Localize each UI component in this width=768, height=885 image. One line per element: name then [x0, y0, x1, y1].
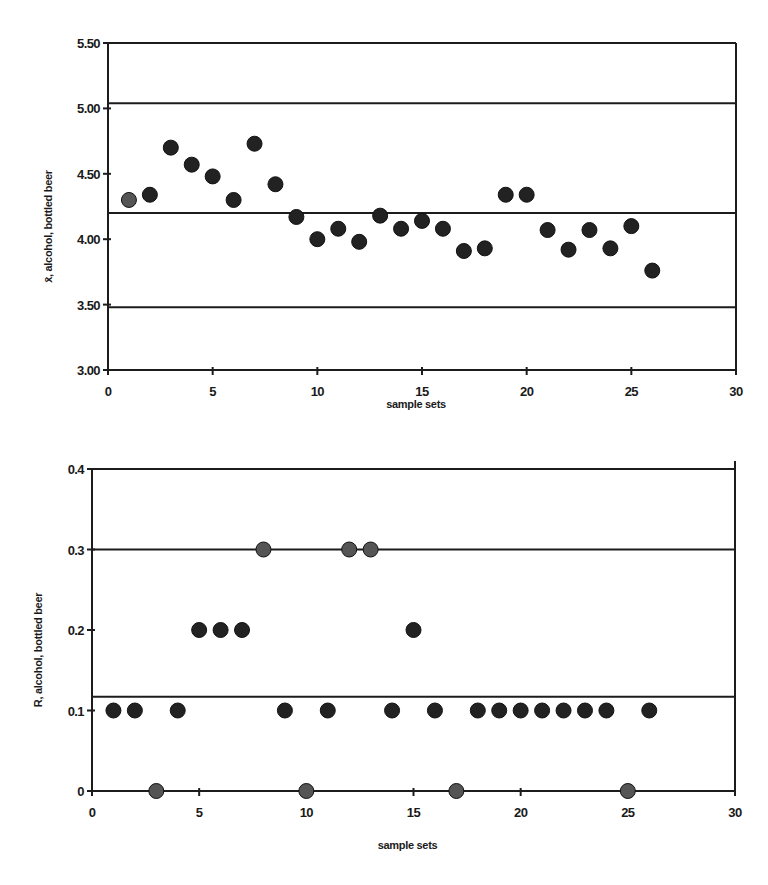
data-point	[415, 213, 430, 228]
data-point	[470, 703, 485, 718]
data-point	[352, 234, 367, 249]
data-point	[342, 542, 357, 557]
y-tick-label: 0.2	[68, 623, 85, 638]
data-point	[427, 703, 442, 718]
data-point	[498, 187, 513, 202]
data-point	[256, 542, 271, 557]
x-tick-label: 10	[311, 384, 325, 399]
data-point	[582, 223, 597, 238]
y-axis-title: R, alcohol, bottled beer	[32, 592, 44, 707]
data-point	[645, 263, 660, 278]
data-point	[620, 784, 635, 799]
x-tick-label: 30	[729, 384, 743, 399]
data-point	[184, 157, 199, 172]
y-tick-label: 4.50	[77, 167, 100, 182]
y-tick-label: 0.1	[68, 704, 85, 719]
x-tick-label: 15	[415, 384, 429, 399]
y-tick-label: 5.00	[77, 101, 100, 116]
data-point	[577, 703, 592, 718]
y-tick-label: 5.50	[77, 36, 100, 51]
data-point	[513, 703, 528, 718]
data-point	[127, 703, 142, 718]
x-axis-title: sample sets	[378, 839, 438, 851]
data-point	[320, 703, 335, 718]
data-point	[642, 703, 657, 718]
range-chart-svg: 00.10.20.30.4051015202530sample setsR, a…	[0, 425, 768, 885]
data-point	[142, 187, 157, 202]
y-tick-label: 0.3	[68, 543, 85, 558]
data-point	[289, 209, 304, 224]
data-point	[492, 703, 507, 718]
data-point	[535, 703, 550, 718]
data-point	[277, 703, 292, 718]
data-point	[373, 208, 388, 223]
data-point	[205, 169, 220, 184]
data-point	[449, 784, 464, 799]
x-tick-label: 30	[728, 805, 742, 820]
y-tick-label: 0	[77, 784, 84, 799]
x-tick-label: 25	[625, 384, 639, 399]
x-tick-label: 20	[520, 384, 534, 399]
data-point	[299, 784, 314, 799]
data-point	[106, 703, 121, 718]
x-tick-label: 0	[89, 805, 96, 820]
y-axis-title: x̄, alcohol, bottled beer	[42, 169, 54, 283]
range-chart: 00.10.20.30.4051015202530sample setsR, a…	[0, 425, 768, 885]
data-point	[599, 703, 614, 718]
xbar-chart-svg: 3.003.504.004.505.005.50051015202530samp…	[0, 0, 768, 425]
xbar-chart: 3.003.504.004.505.005.50051015202530samp…	[0, 0, 768, 425]
data-point	[363, 542, 378, 557]
data-point	[435, 221, 450, 236]
data-point	[540, 223, 555, 238]
data-point	[519, 187, 534, 202]
x-tick-label: 10	[300, 805, 314, 820]
data-point	[456, 243, 471, 258]
y-tick-label: 3.00	[77, 363, 100, 378]
y-tick-label: 0.4	[68, 462, 86, 477]
data-point	[226, 192, 241, 207]
x-tick-label: 0	[105, 384, 112, 399]
data-point	[331, 221, 346, 236]
data-point	[406, 623, 421, 638]
data-point	[477, 241, 492, 256]
data-point	[385, 703, 400, 718]
data-point	[268, 177, 283, 192]
x-tick-label: 5	[196, 805, 203, 820]
data-point	[213, 623, 228, 638]
data-point	[149, 784, 164, 799]
x-tick-label: 20	[514, 805, 528, 820]
x-tick-label: 5	[209, 384, 216, 399]
data-point	[310, 232, 325, 247]
data-point	[170, 703, 185, 718]
y-tick-label: 4.00	[77, 232, 100, 247]
y-tick-label: 3.50	[77, 298, 100, 313]
data-point	[192, 623, 207, 638]
data-point	[121, 192, 136, 207]
data-point	[394, 221, 409, 236]
data-point	[624, 219, 639, 234]
data-point	[247, 136, 262, 151]
data-point	[603, 241, 618, 256]
data-point	[235, 623, 250, 638]
data-point	[561, 242, 576, 257]
x-tick-label: 15	[407, 805, 421, 820]
data-point	[163, 140, 178, 155]
x-axis-title: sample sets	[386, 398, 446, 410]
x-tick-label: 25	[621, 805, 635, 820]
data-point	[556, 703, 571, 718]
